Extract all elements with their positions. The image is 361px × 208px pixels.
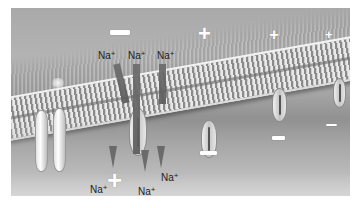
negative-charge-sign <box>110 30 130 35</box>
negative-charge-sign <box>326 124 337 126</box>
sodium-ion-label: Na+ <box>157 49 174 61</box>
ion-charge: + <box>103 183 108 192</box>
ion-charge: + <box>174 171 179 180</box>
ion-flow-cone <box>157 146 165 168</box>
ion-flow-arrow <box>133 64 140 154</box>
negative-charge-sign <box>272 136 285 140</box>
positive-charge-sign: + <box>269 26 279 43</box>
ion-symbol: Na <box>98 50 111 61</box>
transport-protein <box>35 110 48 172</box>
sodium-ion-label: Na+ <box>161 171 178 183</box>
membrane-illustration: + + + + Na+ Na+ Na+ Na+ Na+ Na+ <box>11 8 350 196</box>
positive-charge-sign: + <box>198 23 211 45</box>
ion-symbol: Na <box>128 50 141 61</box>
ion-symbol: Na <box>161 172 174 183</box>
transport-protein <box>53 108 66 172</box>
ion-symbol: Na <box>90 184 103 195</box>
positive-charge-sign: + <box>325 28 333 41</box>
negative-charge-sign <box>200 151 217 155</box>
ion-charge: + <box>141 49 146 58</box>
ion-flow-cone <box>141 150 149 172</box>
ion-symbol: Na <box>157 50 170 61</box>
sodium-ion-label: Na+ <box>98 49 115 61</box>
ion-charge: + <box>170 49 175 58</box>
sodium-channel <box>272 88 287 122</box>
sodium-channel <box>333 78 346 108</box>
sodium-ion-label: Na+ <box>138 185 155 196</box>
ion-charge: + <box>111 49 116 58</box>
positive-charge-sign: + <box>107 167 122 193</box>
ion-symbol: Na <box>138 186 151 196</box>
ion-charge: + <box>151 185 156 194</box>
sodium-ion-label: Na+ <box>90 183 107 195</box>
sodium-ion-label: Na+ <box>128 49 145 61</box>
ion-flow-arrow <box>159 64 166 104</box>
